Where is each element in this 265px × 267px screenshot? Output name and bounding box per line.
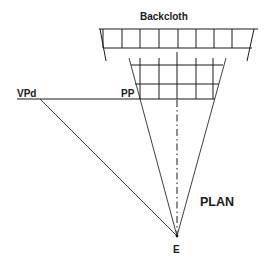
front-grid [131,52,223,99]
backcloth-label: Backcloth [140,11,188,22]
backcloth-strip [99,29,258,61]
pp-label: PP [121,88,135,99]
vpd-label: VPd [17,88,36,99]
stage-perspective-plan-diagram: Backcloth VPd PP [0,0,265,267]
eye-point-marker [176,235,179,238]
plan-label: PLAN [200,195,234,209]
vpd-diagonal-line [40,99,177,236]
eye-label: E [173,244,180,255]
